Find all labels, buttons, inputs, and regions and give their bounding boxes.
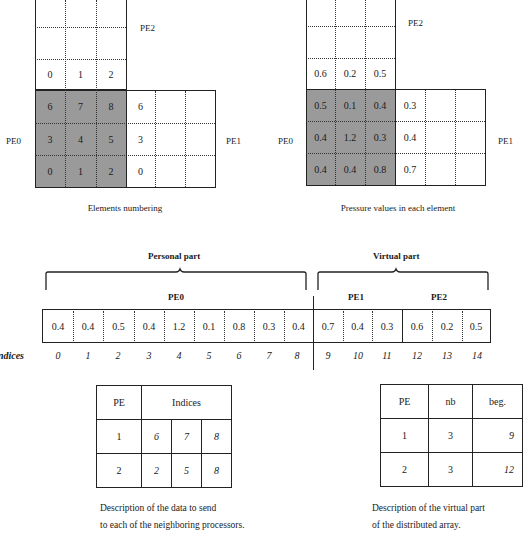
pe2-label: PE2 bbox=[408, 18, 423, 28]
header-pe: PE bbox=[381, 385, 429, 419]
element-number: 2 bbox=[96, 155, 126, 187]
pe2-array-label: PE2 bbox=[431, 292, 447, 302]
grid-line bbox=[185, 91, 186, 187]
pressure-value: 0.5 bbox=[365, 58, 395, 89]
array-value: 0.4 bbox=[43, 309, 73, 343]
pressure-value: 0.2 bbox=[335, 58, 365, 89]
pressure-value: 0.8 bbox=[365, 153, 395, 185]
element-number: 0 bbox=[35, 59, 65, 90]
pressure-value: 0.4 bbox=[365, 89, 395, 121]
array-value: 0.5 bbox=[462, 309, 490, 343]
table-row: 1 6 7 8 bbox=[97, 420, 232, 454]
index-cell: 7 bbox=[171, 420, 201, 454]
grid-line bbox=[155, 91, 156, 187]
right-mesh-caption: Pressure values in each element bbox=[318, 203, 478, 213]
array-index: 6 bbox=[224, 350, 254, 361]
array-index: 10 bbox=[343, 350, 373, 361]
table-row: 2 2 5 8 bbox=[97, 454, 232, 488]
pe1-array-label: PE1 bbox=[348, 292, 364, 302]
beg-cell: 9 bbox=[473, 419, 523, 453]
personal-part-label: Personal part bbox=[148, 251, 200, 261]
array-value: 1.2 bbox=[164, 309, 194, 343]
element-number: 0 bbox=[35, 155, 65, 187]
pe-cell: 2 bbox=[381, 453, 429, 487]
brace-icon bbox=[0, 262, 524, 294]
left-mesh-caption: Elements numbering bbox=[60, 203, 190, 213]
pressure-value: 0.5 bbox=[306, 89, 335, 121]
nb-cell: 3 bbox=[429, 453, 473, 487]
header-beg: beg. bbox=[473, 385, 523, 419]
pe1-label: PE1 bbox=[498, 136, 513, 146]
pe0-label: PE0 bbox=[6, 136, 21, 146]
pe-cell: 1 bbox=[97, 420, 142, 454]
pressure-value: 0.4 bbox=[395, 121, 425, 153]
pe0-array-label: PE0 bbox=[168, 292, 184, 302]
pressure-value: 0.6 bbox=[306, 58, 335, 89]
index-cell: 2 bbox=[142, 454, 172, 488]
grid-line bbox=[425, 90, 426, 185]
element-number: 3 bbox=[35, 123, 65, 155]
array-index: 0 bbox=[43, 350, 73, 361]
element-number: 8 bbox=[96, 90, 126, 123]
array-index: 1 bbox=[73, 350, 103, 361]
array-value: 0.2 bbox=[432, 309, 462, 343]
pressure-value: 1.2 bbox=[335, 121, 365, 153]
element-number: 6 bbox=[35, 90, 65, 123]
array-index: 11 bbox=[372, 350, 402, 361]
table-row: 1 3 9 bbox=[381, 419, 523, 453]
element-number: 1 bbox=[65, 155, 96, 187]
pe-cell: 2 bbox=[97, 454, 142, 488]
array-value: 0.3 bbox=[372, 309, 402, 343]
header-indices: Indices bbox=[142, 386, 232, 420]
array-value: 0.3 bbox=[254, 309, 284, 343]
virtual-part-label: Virtual part bbox=[373, 251, 419, 261]
array-index: 14 bbox=[462, 350, 492, 361]
send-table: PE Indices 1 6 7 8 2 2 5 8 bbox=[96, 385, 232, 488]
array-value: 0.4 bbox=[284, 309, 313, 343]
grid-line bbox=[35, 27, 126, 28]
array-value: 0.5 bbox=[103, 309, 134, 343]
pe1-label: PE1 bbox=[226, 136, 241, 146]
beg-cell: 12 bbox=[473, 453, 523, 487]
array-index: 2 bbox=[103, 350, 133, 361]
pressure-value: 0.4 bbox=[306, 121, 335, 153]
indices-label: Indices bbox=[0, 350, 24, 361]
array-index: 7 bbox=[254, 350, 284, 361]
array-value: 0.1 bbox=[194, 309, 224, 343]
index-cell: 5 bbox=[171, 454, 201, 488]
element-number: 3 bbox=[126, 123, 155, 155]
array-value: 0.4 bbox=[343, 309, 372, 343]
element-number: 1 bbox=[65, 59, 96, 90]
index-cell: 8 bbox=[201, 454, 231, 488]
pressure-value: 0.3 bbox=[365, 121, 395, 153]
array-index: 12 bbox=[402, 350, 432, 361]
pressure-value: 0.4 bbox=[306, 153, 335, 185]
array-value: 0.4 bbox=[73, 309, 103, 343]
grid-line bbox=[306, 26, 395, 27]
caption-line: of the distributed array. bbox=[372, 517, 485, 534]
caption-line: Description of the data to send bbox=[100, 500, 245, 517]
array-index: 9 bbox=[313, 350, 343, 361]
array-index: 13 bbox=[432, 350, 462, 361]
array-index: 8 bbox=[282, 350, 312, 361]
header-nb: nb bbox=[429, 385, 473, 419]
virtual-table-caption: Description of the virtual part of the d… bbox=[372, 500, 485, 534]
array-value: 0.8 bbox=[224, 309, 254, 343]
index-cell: 8 bbox=[201, 420, 231, 454]
table-row: 2 3 12 bbox=[381, 453, 523, 487]
pressure-value: 0.7 bbox=[395, 153, 425, 185]
virtual-table: PE nb beg. 1 3 9 2 3 12 bbox=[380, 384, 523, 487]
element-number: 4 bbox=[65, 123, 96, 155]
array-value: 0.4 bbox=[134, 309, 164, 343]
pe2-label: PE2 bbox=[140, 23, 155, 33]
send-table-caption: Description of the data to send to each … bbox=[100, 500, 245, 534]
array-index: 4 bbox=[164, 350, 194, 361]
array-value: 0.7 bbox=[313, 309, 343, 343]
element-number: 0 bbox=[126, 155, 155, 187]
element-number: 5 bbox=[96, 123, 126, 155]
grid-line bbox=[455, 90, 456, 185]
caption-line: Description of the virtual part bbox=[372, 500, 485, 517]
pressure-value: 0.4 bbox=[335, 153, 365, 185]
index-cell: 6 bbox=[142, 420, 172, 454]
element-number: 2 bbox=[96, 59, 126, 90]
